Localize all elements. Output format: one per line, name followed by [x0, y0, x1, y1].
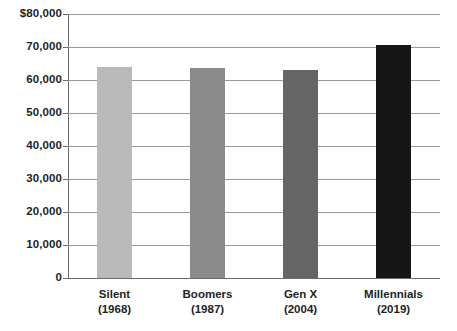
category-name: Millennials — [334, 287, 454, 302]
x-axis-baseline — [68, 278, 440, 279]
plot-area — [68, 14, 440, 278]
gridline — [68, 14, 440, 15]
y-tick-label: 20,000 — [0, 206, 62, 217]
y-tick-label: 40,000 — [0, 140, 62, 151]
y-tick-label: 10,000 — [0, 239, 62, 250]
y-tick-label: 0 — [0, 272, 62, 283]
y-tick-label: 70,000 — [0, 41, 62, 52]
bar — [283, 70, 318, 278]
bar — [97, 67, 132, 278]
bar — [190, 68, 225, 278]
y-axis-tick-labels: $80,00070,00060,00050,00040,00030,00020,… — [0, 0, 62, 331]
category-year: (2019) — [334, 302, 454, 317]
bar-chart: $80,00070,00060,00050,00040,00030,00020,… — [0, 0, 457, 331]
y-tick-label: $80,000 — [0, 8, 62, 19]
y-tick-label: 30,000 — [0, 173, 62, 184]
x-axis-category-label: Millennials(2019) — [334, 287, 454, 316]
y-tick-label: 60,000 — [0, 74, 62, 85]
y-tick-label: 50,000 — [0, 107, 62, 118]
bar — [376, 45, 411, 278]
